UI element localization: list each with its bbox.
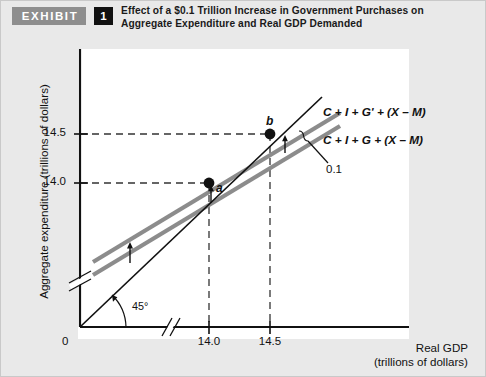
chart-figure: 14.5 14.0 14.0 14.5 0 Aggregate expendit… <box>10 35 476 369</box>
exhibit-page: EXHIBIT 1 Effect of a $0.1 Trillion Incr… <box>0 0 486 377</box>
exhibit-number-badge: 1 <box>94 7 113 25</box>
series-label-lower: C + I + G + (X – M) <box>323 133 423 147</box>
point-b-marker <box>265 129 276 140</box>
point-a-marker <box>204 178 215 189</box>
x-tick-label-14-0: 14.0 <box>189 335 229 347</box>
shift-amount-label: 0.1 <box>326 163 342 175</box>
series-line-45-degree <box>80 97 322 327</box>
origin-label: 0 <box>62 335 68 347</box>
point-b-label: b <box>266 114 273 128</box>
chart-graphics <box>10 35 476 369</box>
x-axis-title-line-2: (trillions of dollars) <box>254 355 468 369</box>
exhibit-title-line-2: Expenditure and Real GDP Demanded <box>175 18 362 29</box>
exhibit-title: Effect of a $0.1 Trillion Increase in Go… <box>121 5 466 30</box>
x-axis-title: Real GDP (trillions of dollars) <box>254 341 468 368</box>
exhibit-badge: EXHIBIT <box>12 7 86 25</box>
y-axis-title: Aggregate expenditure (trillions of doll… <box>37 77 50 307</box>
series-label-upper: C + I + G' + (X – M) <box>323 105 426 119</box>
x-axis-title-line-1: Real GDP <box>254 341 468 355</box>
point-a-label: a <box>216 181 223 195</box>
shift-arrow-b-head <box>282 135 288 141</box>
angle-label: 45° <box>132 300 148 312</box>
